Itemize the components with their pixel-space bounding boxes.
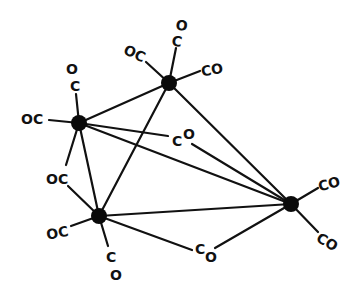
label-bridge-m2m4-c: C [172,133,182,149]
label-m3-down-o: O [110,267,122,283]
label-m3-left: OC [45,223,70,243]
label-m2-up-o: O [66,61,78,77]
bond-m1-m2 [79,83,169,123]
carbonyl-cluster-diagram: OC C O CO C O OC OC C O CO CO OC C O C O [0,0,358,292]
label-bridge-m3m4-c: C [195,241,205,257]
bond-m2-bridge-m2m4 [79,123,168,136]
label-m2-up-c: C [70,78,80,94]
label-bridge-m3m4-o: O [205,249,217,265]
bond-m2-m3 [79,123,99,216]
bond-m1-m3 [99,83,169,216]
metal-atom-m4 [283,196,299,212]
bond-m4-bridge-m3m4 [215,204,291,248]
metal-atom-m3 [91,208,107,224]
label-bridge-m2m3: OC [46,171,68,187]
label-m1-right: CO [200,60,225,80]
label-m3-down-c: C [106,249,116,265]
metal-atom-m1 [161,75,177,91]
bond-m3-m4 [99,204,291,216]
label-m1-up-c: C [170,32,183,50]
bond-m1-m4 [169,83,291,204]
metal-bonds [79,83,291,216]
label-m1-upper-left: OC [121,41,148,65]
metal-atom-m2 [71,115,87,131]
bond-m3-bridge-m3m4 [99,216,192,250]
label-m1-up-o: O [174,16,189,34]
label-m2-left: OC [21,111,43,127]
label-m4-lower-right: CO [314,229,341,254]
ligand-labels: OC C O CO C O OC OC C O CO CO OC C O C O [21,16,342,283]
terminal-co-bonds [49,48,318,246]
label-m4-upper-right: CO [316,173,342,194]
bond-m4-bridge-m2m4 [192,144,291,204]
label-bridge-m2m4-o: O [183,126,195,142]
